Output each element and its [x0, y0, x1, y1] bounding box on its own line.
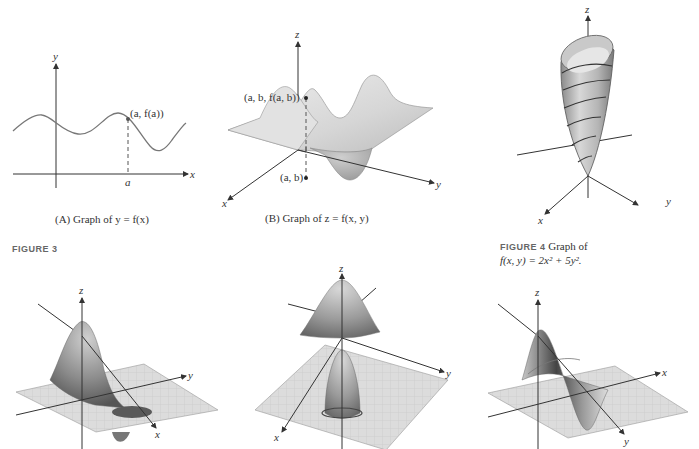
z-axis-label: z	[534, 286, 540, 298]
y-axis-label: y	[52, 50, 58, 62]
panel-a-graph: y x (a, f(a)) a (A) Graph of y = f(x)	[0, 0, 200, 230]
z-axis-label: z	[78, 284, 84, 296]
figure-3-label: FIGURE 3	[12, 244, 58, 254]
x-axis-label: x	[221, 197, 227, 209]
panel-b-graph: z y x (a, b, f(a, b)) (a, b) (B) Graph o…	[200, 0, 470, 230]
z-axis-label: z	[294, 28, 300, 40]
y-axis-label: y	[435, 178, 441, 190]
point-on-surface	[304, 96, 308, 100]
x-axis-label: x	[154, 428, 160, 440]
x-axis-label: x	[661, 366, 667, 378]
point-in-plane	[304, 176, 308, 180]
figure-4-line1: Graph of	[548, 240, 587, 252]
surface-peak	[300, 280, 380, 338]
point-label: (a, f(a))	[130, 107, 164, 120]
x-axis-label: x	[273, 431, 279, 443]
y-axis-label: y	[445, 367, 451, 379]
panel-a-svg: y x (a, f(a)) a	[0, 0, 200, 230]
base-point-label: (a, b)	[280, 171, 304, 184]
y-axis-label: y	[187, 369, 193, 381]
z-axis-label: z	[338, 262, 344, 274]
tick-label-a: a	[125, 176, 131, 188]
bottom-plot-2: z y x	[230, 260, 470, 449]
bottom-plot-2-svg: z y x	[230, 260, 470, 449]
bottom-plot-1-svg: z y x	[0, 260, 240, 449]
paraboloid-graph: z y x	[460, 0, 699, 230]
bottom-plot-3-svg: z x y	[460, 260, 699, 449]
bottom-plot-1: z y x	[0, 260, 240, 449]
y-axis-label: y	[665, 195, 671, 207]
x-axis	[545, 176, 588, 214]
y-axis-label: y	[623, 435, 629, 447]
surface-plane	[228, 75, 433, 152]
figure-4-tag: FIGURE 4	[500, 242, 546, 252]
x-axis-label: x	[189, 168, 195, 180]
surface-dip	[310, 148, 372, 180]
panel-a-caption: (A) Graph of y = f(x)	[55, 213, 149, 225]
paraboloid-svg: z y x	[460, 0, 699, 230]
z-axis-label: z	[584, 3, 590, 15]
surface-trough-bottom	[112, 432, 130, 442]
x-axis-back	[588, 176, 638, 205]
x-axis-label: x	[537, 214, 543, 226]
bottom-plot-3: z x y	[460, 260, 699, 449]
y-axis-back	[498, 304, 538, 336]
panel-b-caption: (B) Graph of z = f(x, y)	[265, 212, 369, 224]
surface-point-label: (a, b, f(a, b))	[244, 91, 300, 104]
panel-b-svg: z y x (a, b, f(a, b)) (a, b)	[200, 0, 470, 230]
